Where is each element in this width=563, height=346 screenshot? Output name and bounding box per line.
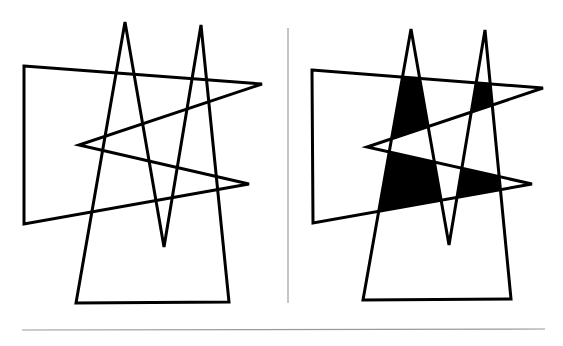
bottom-rule <box>22 329 545 330</box>
figure-canvas <box>0 0 563 346</box>
left-zigzag-shape <box>24 66 262 224</box>
right-m-shape <box>363 29 511 300</box>
right-panel <box>312 29 543 300</box>
left-panel <box>24 22 262 303</box>
